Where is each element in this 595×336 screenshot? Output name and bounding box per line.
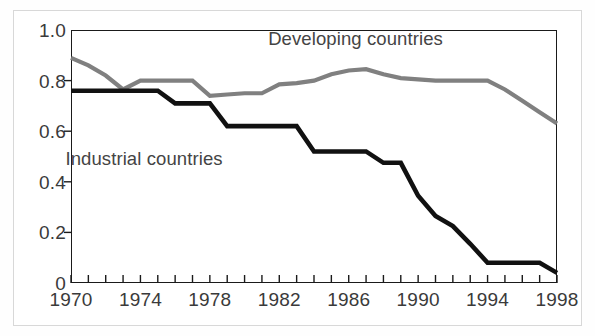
- y-tick-label: 0.6: [12, 122, 66, 141]
- data-line-industrial-countries: [71, 91, 557, 273]
- y-tick-label: 0.2: [12, 223, 66, 242]
- y-tick-label: 0.8: [12, 72, 66, 91]
- x-tick-label: 1974: [119, 289, 162, 311]
- x-tick-label: 1986: [327, 289, 370, 311]
- y-axis-tick-labels: 1.00.80.60.40.20: [6, 0, 66, 336]
- axis-tick-marks: [64, 81, 557, 283]
- x-tick-label: 1978: [188, 289, 231, 311]
- x-tick-label: 1990: [397, 289, 440, 311]
- x-tick-label: 1994: [466, 289, 509, 311]
- series-label-developing-countries: Developing countries: [268, 28, 443, 50]
- x-tick-label: 1970: [49, 289, 92, 311]
- x-tick-label: 1982: [258, 289, 301, 311]
- y-tick-label: 0.4: [12, 173, 66, 192]
- y-tick-label: 1.0: [12, 21, 66, 40]
- x-tick-label: 1998: [535, 289, 578, 311]
- series-label-industrial-countries: Industrial countries: [65, 148, 222, 170]
- chart-figure: 1.00.80.60.40.20 19701974197819821986199…: [0, 0, 595, 336]
- x-axis-tick-labels: 19701974197819821986199019941998: [71, 289, 557, 319]
